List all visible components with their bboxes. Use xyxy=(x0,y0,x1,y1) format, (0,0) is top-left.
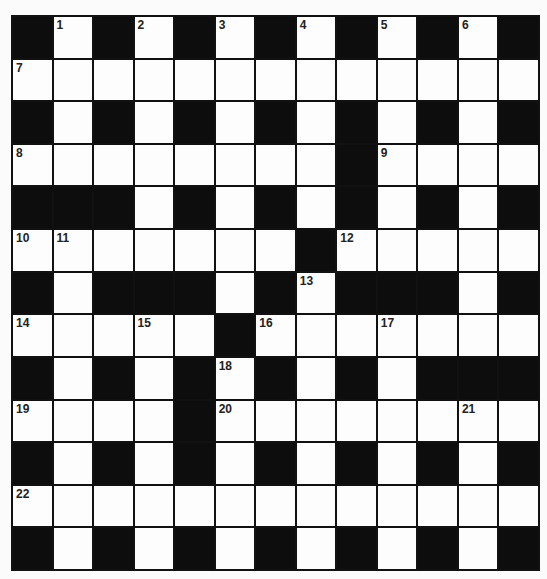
grid-cell[interactable] xyxy=(499,486,538,527)
grid-cell[interactable] xyxy=(256,60,295,101)
grid-cell[interactable] xyxy=(94,60,133,101)
grid-cell[interactable] xyxy=(418,401,457,442)
grid-cell[interactable] xyxy=(459,443,498,484)
grid-cell[interactable] xyxy=(216,60,255,101)
grid-cell[interactable] xyxy=(378,401,417,442)
grid-cell[interactable] xyxy=(459,315,498,356)
grid-cell[interactable] xyxy=(337,401,376,442)
grid-cell[interactable] xyxy=(297,528,336,569)
grid-cell[interactable] xyxy=(54,145,93,186)
grid-cell[interactable]: 9 xyxy=(378,145,417,186)
grid-cell[interactable] xyxy=(54,486,93,527)
grid-cell[interactable] xyxy=(54,528,93,569)
grid-cell[interactable] xyxy=(54,401,93,442)
grid-cell[interactable] xyxy=(256,230,295,271)
grid-cell[interactable] xyxy=(499,315,538,356)
grid-cell[interactable] xyxy=(378,102,417,143)
grid-cell[interactable] xyxy=(216,528,255,569)
grid-cell[interactable] xyxy=(216,187,255,228)
grid-cell[interactable]: 16 xyxy=(256,315,295,356)
grid-cell[interactable] xyxy=(459,230,498,271)
grid-cell[interactable] xyxy=(54,102,93,143)
grid-cell[interactable] xyxy=(256,486,295,527)
grid-cell[interactable] xyxy=(54,443,93,484)
grid-cell[interactable] xyxy=(418,315,457,356)
grid-cell[interactable] xyxy=(135,401,174,442)
grid-cell[interactable]: 6 xyxy=(459,17,498,58)
grid-cell[interactable] xyxy=(175,60,214,101)
grid-cell[interactable] xyxy=(256,401,295,442)
grid-cell[interactable] xyxy=(175,145,214,186)
grid-cell[interactable] xyxy=(94,230,133,271)
grid-cell[interactable] xyxy=(378,60,417,101)
grid-cell[interactable] xyxy=(459,486,498,527)
grid-cell[interactable] xyxy=(297,60,336,101)
grid-cell[interactable]: 11 xyxy=(54,230,93,271)
grid-cell[interactable]: 17 xyxy=(378,315,417,356)
grid-cell[interactable] xyxy=(297,187,336,228)
grid-cell[interactable]: 10 xyxy=(13,230,52,271)
grid-cell[interactable] xyxy=(216,230,255,271)
grid-cell[interactable] xyxy=(216,102,255,143)
grid-cell[interactable]: 1 xyxy=(54,17,93,58)
grid-cell[interactable] xyxy=(297,486,336,527)
grid-cell[interactable] xyxy=(378,528,417,569)
grid-cell[interactable] xyxy=(135,145,174,186)
grid-cell[interactable] xyxy=(378,486,417,527)
grid-cell[interactable] xyxy=(499,60,538,101)
grid-cell[interactable] xyxy=(175,230,214,271)
grid-cell[interactable]: 13 xyxy=(297,273,336,314)
grid-cell[interactable]: 2 xyxy=(135,17,174,58)
grid-cell[interactable]: 18 xyxy=(216,358,255,399)
grid-cell[interactable] xyxy=(459,187,498,228)
grid-cell[interactable] xyxy=(337,60,376,101)
grid-cell[interactable] xyxy=(94,145,133,186)
grid-cell[interactable] xyxy=(297,443,336,484)
grid-cell[interactable] xyxy=(135,102,174,143)
grid-cell[interactable] xyxy=(54,273,93,314)
grid-cell[interactable] xyxy=(378,187,417,228)
grid-cell[interactable] xyxy=(418,230,457,271)
grid-cell[interactable] xyxy=(459,60,498,101)
grid-cell[interactable] xyxy=(459,528,498,569)
grid-cell[interactable] xyxy=(297,102,336,143)
grid-cell[interactable] xyxy=(135,230,174,271)
grid-cell[interactable] xyxy=(54,315,93,356)
grid-cell[interactable] xyxy=(54,60,93,101)
grid-cell[interactable]: 8 xyxy=(13,145,52,186)
grid-cell[interactable] xyxy=(216,443,255,484)
grid-cell[interactable] xyxy=(418,145,457,186)
grid-cell[interactable] xyxy=(337,486,376,527)
grid-cell[interactable] xyxy=(297,401,336,442)
grid-cell[interactable] xyxy=(297,145,336,186)
grid-cell[interactable] xyxy=(418,60,457,101)
grid-cell[interactable] xyxy=(459,273,498,314)
grid-cell[interactable]: 20 xyxy=(216,401,255,442)
grid-cell[interactable] xyxy=(135,60,174,101)
grid-cell[interactable] xyxy=(216,145,255,186)
grid-cell[interactable] xyxy=(135,187,174,228)
grid-cell[interactable] xyxy=(459,102,498,143)
grid-cell[interactable]: 22 xyxy=(13,486,52,527)
grid-cell[interactable] xyxy=(175,315,214,356)
grid-cell[interactable] xyxy=(135,443,174,484)
grid-cell[interactable] xyxy=(135,528,174,569)
grid-cell[interactable] xyxy=(94,315,133,356)
grid-cell[interactable] xyxy=(94,486,133,527)
grid-cell[interactable] xyxy=(418,486,457,527)
grid-cell[interactable] xyxy=(499,401,538,442)
grid-cell[interactable]: 4 xyxy=(297,17,336,58)
grid-cell[interactable] xyxy=(256,145,295,186)
grid-cell[interactable] xyxy=(378,358,417,399)
grid-cell[interactable] xyxy=(216,273,255,314)
grid-cell[interactable]: 3 xyxy=(216,17,255,58)
grid-cell[interactable] xyxy=(337,315,376,356)
grid-cell[interactable] xyxy=(54,358,93,399)
grid-cell[interactable] xyxy=(378,230,417,271)
grid-cell[interactable] xyxy=(135,358,174,399)
grid-cell[interactable]: 5 xyxy=(378,17,417,58)
grid-cell[interactable] xyxy=(297,358,336,399)
grid-cell[interactable]: 7 xyxy=(13,60,52,101)
grid-cell[interactable] xyxy=(175,486,214,527)
grid-cell[interactable] xyxy=(297,315,336,356)
